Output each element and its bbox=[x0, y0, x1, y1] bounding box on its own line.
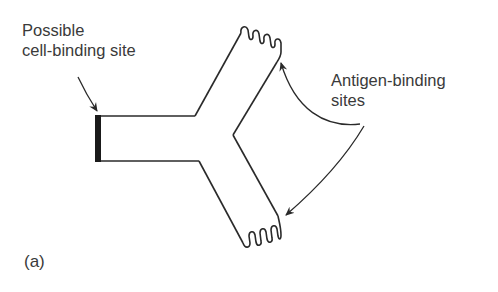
antibody-upper-arm bbox=[195, 33, 277, 135]
antigen-arrow-upper bbox=[281, 63, 360, 125]
lower-antigen-binding-site bbox=[243, 216, 281, 247]
upper-antigen-binding-site bbox=[241, 27, 281, 62]
antibody-diagram bbox=[0, 0, 498, 292]
cell-binding-site bbox=[95, 115, 101, 162]
cell-binding-arrow bbox=[78, 77, 97, 111]
antibody-lower-arm bbox=[199, 135, 278, 243]
antigen-arrow-lower bbox=[286, 126, 364, 215]
antibody-stem bbox=[100, 116, 199, 161]
